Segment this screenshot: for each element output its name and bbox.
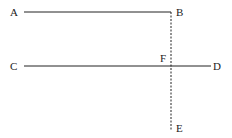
label-a: A (10, 6, 18, 18)
label-e: E (176, 122, 183, 134)
label-d: D (213, 60, 221, 72)
label-b: B (176, 6, 183, 18)
label-c: C (10, 60, 17, 72)
label-f: F (160, 52, 166, 64)
diagram-canvas: A B C D F E (0, 0, 232, 138)
